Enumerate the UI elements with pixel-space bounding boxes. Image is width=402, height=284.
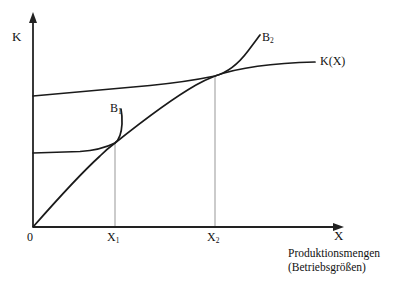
tick-label-x1-base: X xyxy=(107,230,116,244)
origin-label: 0 xyxy=(27,231,33,243)
droplines xyxy=(115,76,215,227)
curve-kx xyxy=(33,62,315,227)
curve-label-b2-base: B xyxy=(262,30,270,44)
y-axis-arrowhead xyxy=(29,12,37,23)
x-axis-label: X xyxy=(334,229,343,242)
axis-caption: Produktionsmengen (Betriebsgrößen) xyxy=(288,247,380,274)
curve-label-b1-subscript: 1 xyxy=(118,107,122,116)
tick-label-x2: X2 xyxy=(207,231,219,243)
curve-label-kx: K(X) xyxy=(320,55,345,67)
curve-label-b2-subscript: 2 xyxy=(270,36,274,45)
curve-label-b2: B2 xyxy=(262,31,274,43)
axis-caption-line-1: Produktionsmengen xyxy=(288,247,380,261)
curve-label-b1-base: B xyxy=(110,101,118,115)
tick-label-x2-base: X xyxy=(207,230,216,244)
cost-curve-diagram: K X 0 X1 X2 B1 B2 K(X) Produktionsmengen… xyxy=(0,0,402,284)
tick-label-x1-subscript: 1 xyxy=(116,236,120,245)
curve-b1 xyxy=(33,109,122,153)
curve-label-b1: B1 xyxy=(110,102,122,114)
y-axis-label: K xyxy=(12,30,21,43)
axes xyxy=(29,12,344,231)
tick-label-x1: X1 xyxy=(107,231,119,243)
tick-label-x2-subscript: 2 xyxy=(216,236,220,245)
axis-caption-line-2: (Betriebsgrößen) xyxy=(288,261,380,275)
curve-b2 xyxy=(33,35,260,96)
